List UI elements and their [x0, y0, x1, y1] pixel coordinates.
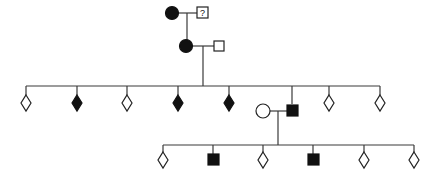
g3-diamond-unaffected — [324, 95, 334, 111]
pedigree-chart: ? — [0, 0, 440, 178]
g4-male-affected — [308, 154, 319, 165]
g1-female-affected — [166, 7, 179, 20]
g4-diamond-unaffected — [409, 152, 419, 168]
generation-2 — [180, 40, 225, 87]
g3-diamond-unaffected — [21, 95, 31, 111]
g3-diamond-affected — [224, 95, 234, 111]
g4-diamond-unaffected — [359, 152, 369, 168]
g4-male-affected — [208, 154, 219, 165]
g4-diamond-unaffected — [158, 152, 168, 168]
generation-4 — [158, 145, 419, 168]
generation-1: ? — [166, 7, 209, 41]
g3-spouse-female-unaffected — [256, 104, 270, 118]
g3-diamond-unaffected — [375, 95, 385, 111]
g3-diamond-unaffected — [122, 95, 132, 111]
g2-female-affected — [180, 40, 193, 53]
g4-diamond-unaffected — [258, 152, 268, 168]
generation-3 — [21, 86, 385, 145]
g2-male-unaffected — [214, 41, 224, 51]
g3-diamond-affected — [72, 95, 82, 111]
g3-diamond-affected — [173, 95, 183, 111]
question-mark-label: ? — [200, 8, 205, 18]
g3-male-affected — [287, 105, 298, 116]
